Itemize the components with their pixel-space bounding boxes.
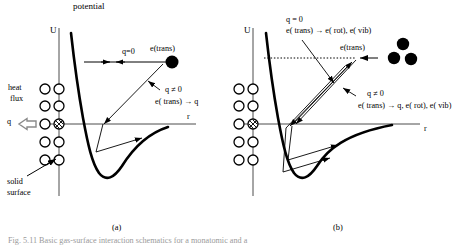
panel-a-inelastic-descent — [96, 124, 103, 152]
panel-a-heat-label-line2: flux — [10, 95, 23, 104]
panel-b-graphics — [234, 28, 420, 196]
panel-a-elastic-condition: q=0 — [122, 48, 135, 57]
panel-b-inelastic-up — [286, 66, 345, 128]
panel-a-potential-curve — [71, 33, 168, 178]
panel-b-gas-molecule — [388, 38, 417, 65]
panel-b-e-trans-label: e(trans) — [340, 44, 365, 53]
panel-b-elastic-down — [296, 60, 356, 124]
panel-b-inelastic-label-pointer — [343, 88, 356, 96]
panel-a-solid-label-line2: surface — [7, 189, 31, 198]
panel-a-e-trans-label: e(trans) — [150, 45, 175, 54]
panel-b-elastic-condition: q = 0 — [286, 16, 303, 25]
panel-a-inelastic-label-pointer — [148, 81, 160, 90]
panel-a-caption: (a) — [112, 224, 121, 233]
figure-caption: Fig. 5.11 Basic gas-surface interaction … — [8, 236, 463, 246]
panel-b-descent-1 — [288, 126, 292, 160]
panel-b-u-axis-label: U — [244, 26, 251, 35]
panel-a-heat-label-line1: heat — [8, 84, 22, 93]
panel-a-q-symbol: q — [7, 118, 11, 127]
panel-a-inelastic-condition: q ≠ 0 — [165, 86, 182, 95]
panel-b-inelastic-down — [290, 64, 350, 126]
panel-a-u-axis-label: U — [50, 26, 57, 35]
panel-a-gas-particle — [166, 56, 179, 69]
panel-b-inelastic-process: e( trans) → q, e( rot), e( vib) — [358, 102, 451, 111]
panel-b-caption: (b) — [333, 224, 343, 233]
diagram-canvas — [0, 0, 469, 246]
panel-a-surface-atom-hatched — [54, 119, 64, 129]
panel-b-surface-atom-hatched — [248, 119, 258, 129]
panel-a-r-axis-label: r — [187, 113, 190, 122]
panel-a-inelastic-incoming — [104, 64, 163, 124]
panel-a-solid-label-line1: solid — [7, 178, 23, 187]
panel-a-inelastic-process: e( trans) → q — [155, 98, 198, 107]
panel-b-inelastic-condition: q ≠ 0 — [367, 90, 384, 99]
panel-b-outgoing-1 — [288, 145, 338, 160]
figure-gas-surface-interaction: potential U r heat flux q solid surface … — [0, 0, 469, 246]
panel-b-r-axis-label: r — [424, 125, 427, 134]
panel-b-elastic-label-pointer — [302, 40, 334, 83]
panel-a-heat-flux-arrow — [19, 119, 36, 130]
figure-top-label: potential — [73, 2, 105, 11]
panel-b-elastic-process: e( trans) → e( rot), e( vib) — [286, 27, 371, 36]
